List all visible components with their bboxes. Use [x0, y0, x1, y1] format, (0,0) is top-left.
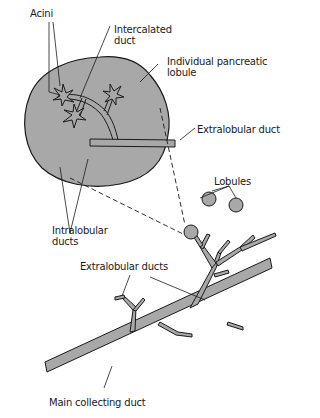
- label-intercalated-2: duct: [114, 35, 135, 46]
- duct-tree: [45, 233, 276, 372]
- label-intralobular-2: ducts: [52, 236, 78, 247]
- label-lobule-1: Individual pancreatic: [167, 56, 267, 67]
- individual-lobule-shape: [25, 57, 169, 187]
- label-intercalated-1: Intercalated: [114, 24, 172, 35]
- label-lobule-2: lobule: [167, 67, 196, 78]
- label-extralobular-ducts: Extralobular ducts: [80, 261, 168, 272]
- label-lobules: Lobules: [214, 176, 251, 187]
- label-main-collecting-duct: Main collecting duct: [49, 397, 146, 408]
- label-extralobular-duct: Extralobular duct: [197, 124, 280, 135]
- label-intralobular-1: Intralobular: [52, 225, 108, 236]
- extralobular-duct-shape: [90, 139, 175, 147]
- label-acini: Acini: [30, 8, 53, 19]
